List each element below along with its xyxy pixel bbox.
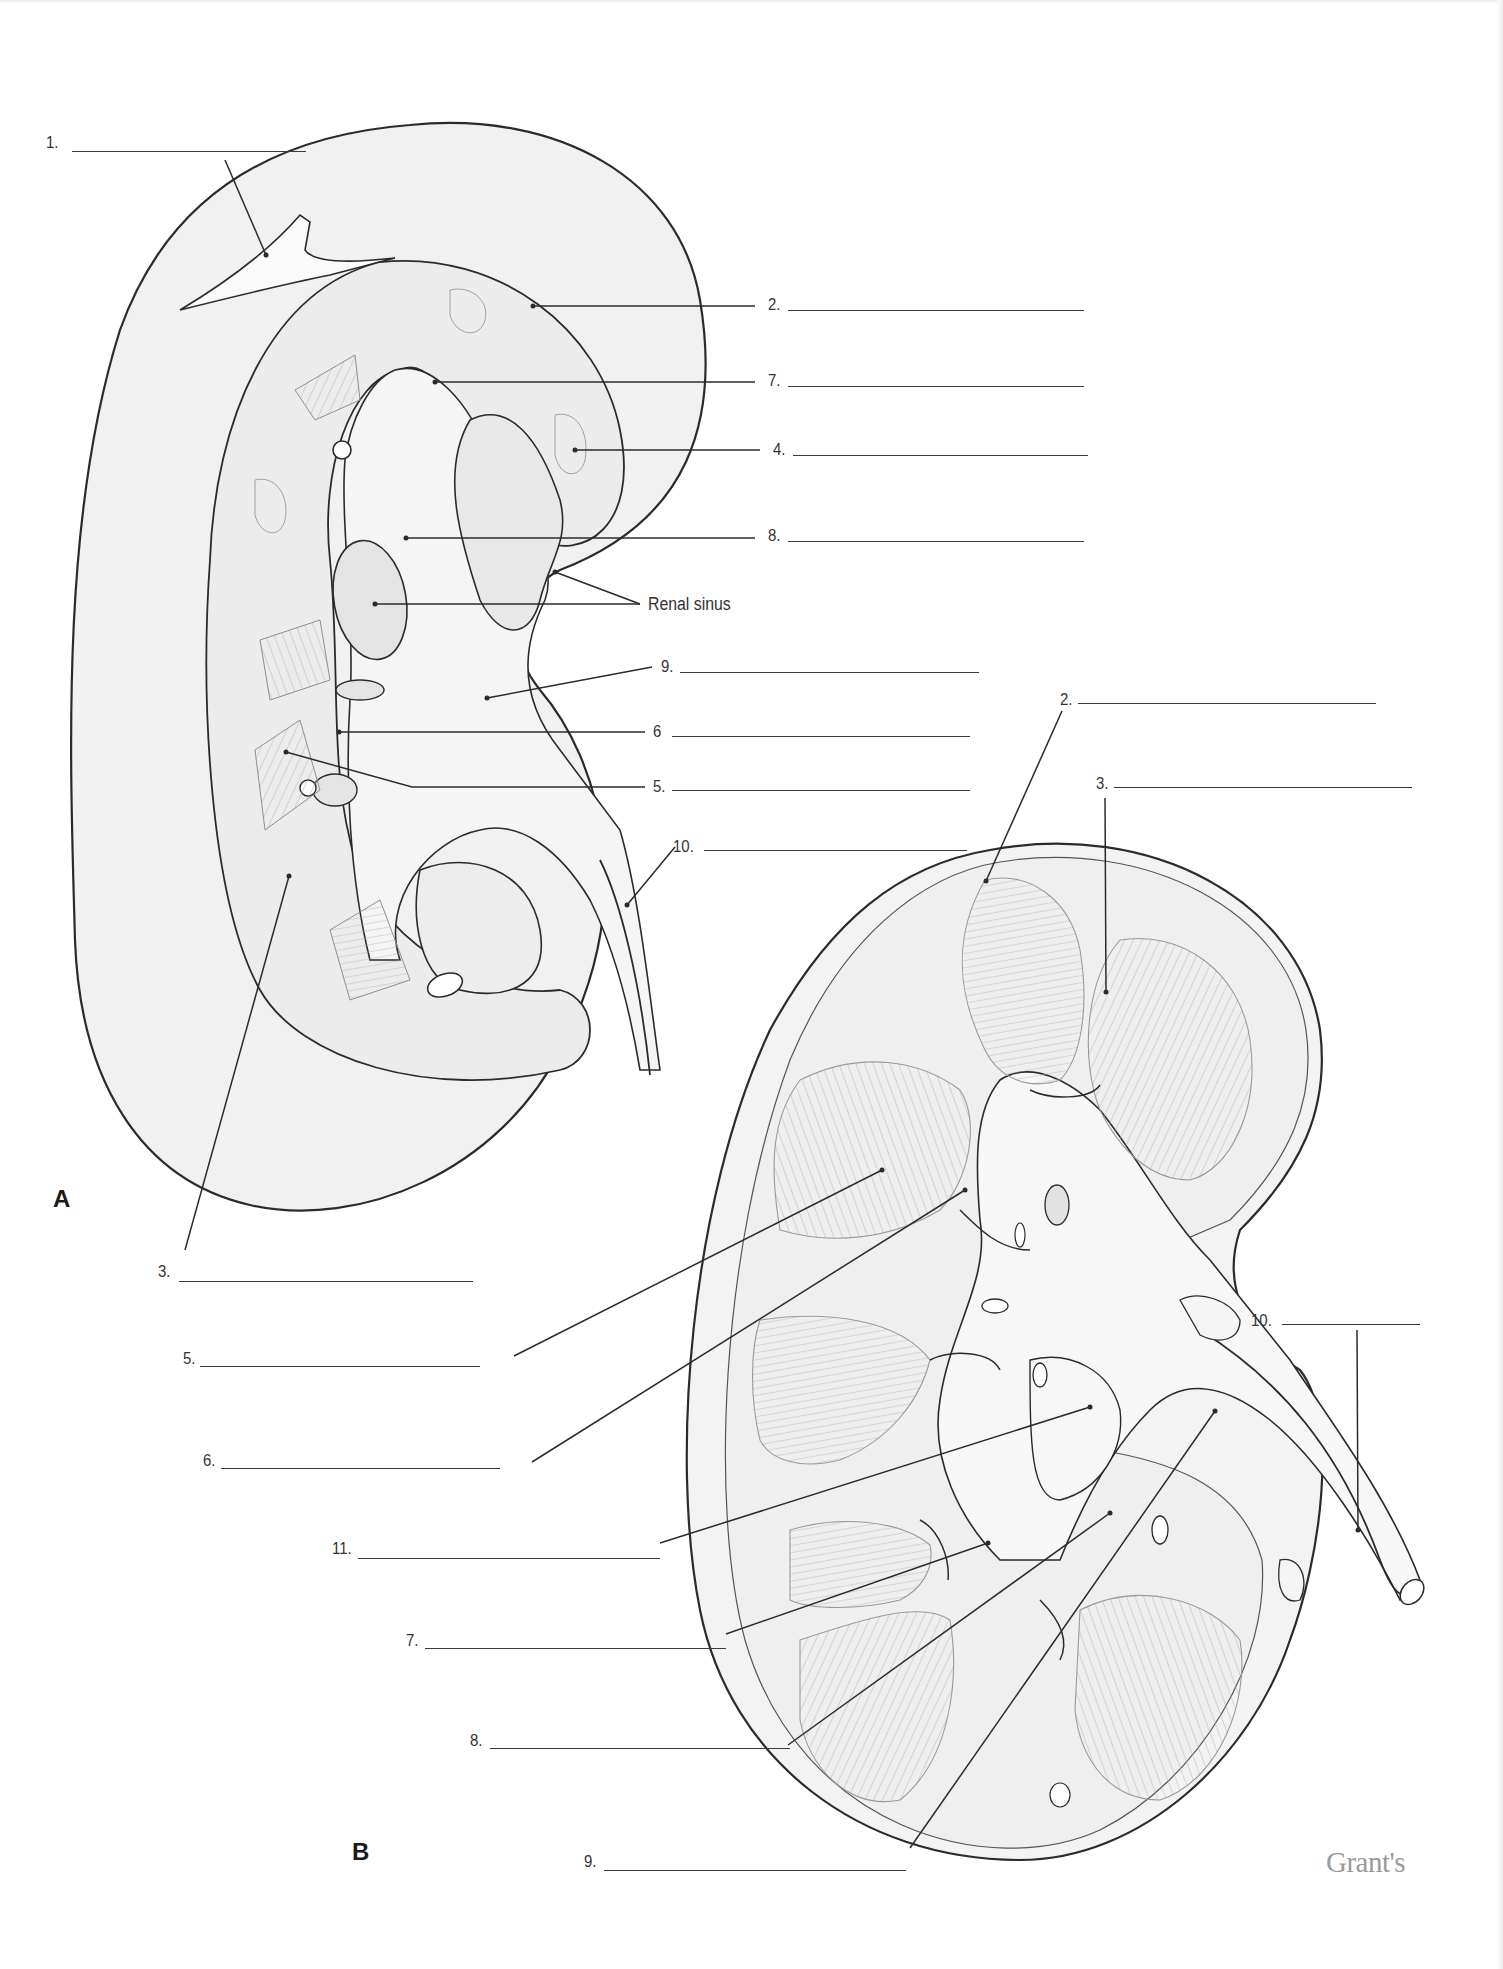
fig-b-label-11-number: 11. [332, 1540, 352, 1557]
fig-b-label-5-blank[interactable] [200, 1366, 480, 1367]
fig-a-label-10-number: 10. [673, 838, 694, 855]
fig-a-label-2-number: 2. [768, 296, 780, 313]
fig-a-label-2-blank[interactable] [788, 310, 1084, 311]
fig-a-label-4-number: 4. [773, 441, 785, 458]
fig-a-label-9-number: 9. [661, 658, 673, 675]
fig-a-label-9-blank[interactable] [680, 672, 979, 673]
fig-a-label-1-blank[interactable] [72, 151, 306, 152]
fig-a-label-5-blank[interactable] [672, 790, 970, 791]
figure-b-letter: B [352, 1838, 369, 1866]
fig-b-label-10-blank[interactable] [1282, 1324, 1420, 1325]
fig-b-label-3-blank[interactable] [1114, 787, 1412, 788]
fig-a-label-8-blank[interactable] [788, 541, 1084, 542]
fig-b-label-3-number: 3. [1096, 775, 1108, 792]
fig-a-label-4-blank[interactable] [793, 455, 1088, 456]
fig-a-label-7-number: 7. [768, 372, 780, 389]
fig-a-label-7-blank[interactable] [788, 386, 1084, 387]
grants-logo: Grant's [1326, 1846, 1405, 1879]
fig-b-label-6-number: 6. [203, 1452, 215, 1469]
fig-a-label-3-number: 3. [158, 1263, 170, 1280]
fig-a-label-6-blank[interactable] [672, 736, 970, 737]
fig-b-label-8-blank[interactable] [490, 1748, 790, 1749]
fig-b-label-7-blank[interactable] [425, 1648, 726, 1649]
fig-b-label-7-number: 7. [406, 1632, 418, 1649]
figure-a-letter: A [53, 1185, 70, 1213]
figure-b-kidney [687, 844, 1429, 1860]
kidney-illustration [0, 0, 1503, 1969]
fig-b-label-5-number: 5. [183, 1350, 195, 1367]
fig-b-label-11-blank[interactable] [358, 1558, 660, 1559]
fig-a-label-8-number: 8. [768, 527, 780, 544]
fig-b-label-2-number: 2. [1060, 691, 1072, 708]
figure-a-kidney [71, 123, 706, 1211]
fig-a-label-5-number: 5. [653, 778, 665, 795]
fig-b-label-2-blank[interactable] [1078, 703, 1376, 704]
fig-a-label-6-number: 6 [653, 723, 661, 740]
fig-b-label-9-blank[interactable] [604, 1870, 906, 1871]
fig-a-label-3-blank[interactable] [179, 1281, 473, 1282]
fig-a-label-1-number: 1. [46, 134, 58, 151]
fig-a-label-10-blank[interactable] [704, 850, 967, 851]
fig-b-label-10-number: 10. [1251, 1312, 1272, 1329]
fig-b-label-8-number: 8. [470, 1732, 482, 1749]
renal-sinus-label: Renal sinus [648, 595, 731, 613]
fig-b-label-9-number: 9. [584, 1853, 596, 1870]
fig-b-label-6-blank[interactable] [221, 1468, 500, 1469]
